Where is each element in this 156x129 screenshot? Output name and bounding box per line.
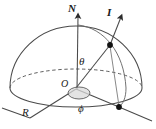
surface-point-marker	[107, 42, 113, 48]
label-north-axis: N	[68, 3, 76, 14]
label-intensity-vector: I	[107, 7, 111, 18]
meridian-great-circle-arc	[78, 25, 126, 88]
label-reference-axis: R	[22, 107, 29, 118]
base-point-marker	[116, 104, 122, 110]
label-origin: O	[61, 79, 68, 89]
hemisphere-dome-outline	[10, 26, 142, 88]
label-polar-angle: θ	[79, 56, 84, 67]
azimuth-line-extension	[119, 107, 152, 121]
equator-back-arc	[10, 69, 142, 88]
label-azimuth-angle: ϕ	[78, 103, 84, 114]
azimuth-indicator-ellipse	[68, 87, 90, 99]
spherical-coordinate-diagram: N I θ O ϕ R	[0, 0, 156, 129]
north-zenith-axis	[77, 16, 78, 90]
meridian-arc-lower	[119, 88, 126, 107]
